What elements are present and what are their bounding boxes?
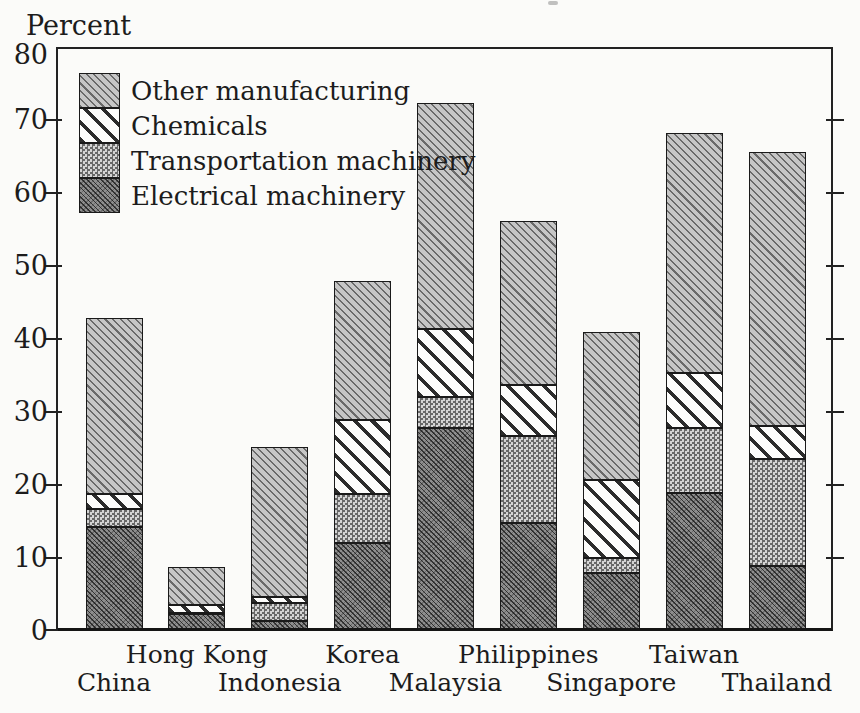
y-tick-label-70: 70: [0, 106, 48, 134]
y-tick-label-40: 40: [0, 325, 48, 353]
bar-korea-transportation-machinery: [334, 494, 391, 544]
bar-malaysia-other-manufacturing: [417, 103, 474, 329]
bar-indonesia-other-manufacturing: [251, 447, 308, 597]
bar-philippines-other-manufacturing: [500, 221, 557, 385]
bar-singapore-other-manufacturing: [583, 332, 640, 480]
bar-singapore-transportation-machinery: [583, 558, 640, 573]
y-tick-right-20: [826, 484, 844, 486]
bar-hong-kong-transportation-machinery: [168, 613, 225, 616]
legend-label-chemicals: Chemicals: [131, 112, 268, 139]
y-tick-label-0: 0: [0, 617, 48, 645]
bar-taiwan-other-manufacturing: [666, 133, 723, 373]
bar-china-other-manufacturing: [86, 318, 143, 495]
stacked-bar-chart-figure: Percent 01020304050607080ChinaHong KongI…: [0, 0, 860, 713]
y-tick-label-20: 20: [0, 471, 48, 499]
legend-label-electrical-machinery: Electrical machinery: [131, 182, 405, 209]
y-tick-right-30: [826, 411, 844, 413]
bar-thailand-transportation-machinery: [749, 459, 806, 566]
legend-swatch-transportation-machinery: [79, 143, 120, 178]
x-label-china: China: [77, 670, 151, 696]
y-tick-right-70: [826, 119, 844, 121]
bar-china-chemicals: [86, 494, 143, 509]
y-axis-title: Percent: [26, 12, 131, 40]
bar-taiwan-electrical-machinery: [666, 493, 723, 631]
x-label-thailand: Thailand: [722, 670, 833, 696]
bar-indonesia-transportation-machinery: [251, 603, 308, 621]
bar-singapore-chemicals: [583, 480, 640, 558]
bar-philippines-chemicals: [500, 385, 557, 436]
bar-hong-kong-other-manufacturing: [168, 567, 225, 606]
y-tick-right-50: [826, 265, 844, 267]
bar-taiwan-transportation-machinery: [666, 428, 723, 493]
bar-thailand-chemicals: [749, 426, 806, 460]
bar-indonesia-chemicals: [251, 597, 308, 604]
y-tick-label-80: 80: [0, 41, 48, 69]
x-label-philippines: Philippines: [458, 642, 599, 668]
legend-swatch-chemicals: [79, 108, 120, 143]
bar-hong-kong-electrical-machinery: [168, 614, 225, 631]
legend-label-other-manufacturing: Other manufacturing: [131, 77, 410, 104]
bar-philippines-electrical-machinery: [500, 523, 557, 631]
bar-malaysia-chemicals: [417, 329, 474, 398]
bar-malaysia-electrical-machinery: [417, 428, 474, 631]
bar-thailand-other-manufacturing: [749, 152, 806, 426]
bar-korea-chemicals: [334, 420, 391, 494]
y-tick-label-60: 60: [0, 179, 48, 207]
bar-singapore-electrical-machinery: [583, 573, 640, 631]
legend-swatch-electrical-machinery: [79, 178, 120, 213]
bar-korea-electrical-machinery: [334, 543, 391, 631]
y-tick-label-10: 10: [0, 544, 48, 572]
x-label-taiwan: Taiwan: [649, 642, 739, 668]
legend-swatch-other-manufacturing: [79, 73, 120, 108]
bar-hong-kong-chemicals: [168, 605, 225, 612]
bar-thailand-electrical-machinery: [749, 566, 806, 631]
x-label-singapore: Singapore: [546, 670, 676, 696]
bar-indonesia-electrical-machinery: [251, 621, 308, 631]
x-label-malaysia: Malaysia: [389, 670, 502, 696]
y-tick-right-40: [826, 338, 844, 340]
y-tick-right-60: [826, 192, 844, 194]
y-tick-label-50: 50: [0, 252, 48, 280]
bar-korea-other-manufacturing: [334, 281, 391, 420]
bar-taiwan-chemicals: [666, 373, 723, 428]
legend-label-transportation-machinery: Transportation machinery: [131, 147, 476, 174]
bar-philippines-transportation-machinery: [500, 436, 557, 523]
x-label-hong-kong: Hong Kong: [126, 642, 268, 668]
bar-china-electrical-machinery: [86, 527, 143, 631]
cropped-title-artifact: [548, 1, 558, 5]
bar-malaysia-transportation-machinery: [417, 397, 474, 428]
bar-china-transportation-machinery: [86, 509, 143, 527]
y-tick-right-10: [826, 557, 844, 559]
y-tick-label-30: 30: [0, 398, 48, 426]
x-label-indonesia: Indonesia: [218, 670, 342, 696]
x-label-korea: Korea: [325, 642, 400, 668]
